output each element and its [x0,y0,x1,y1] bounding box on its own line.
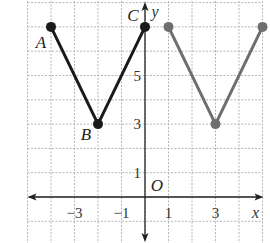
translated-graph-point [211,119,221,129]
y-tick-label: 3 [134,116,142,132]
coordinate-plane: −3−113135OxyABC [0,0,270,243]
y-tick-label: 5 [134,68,142,84]
x-tick-label: 3 [212,205,220,221]
point-label-c: C [127,6,139,25]
original-graph-point [93,119,103,129]
x-tick-label: 1 [165,205,173,221]
original-graph-point [46,22,56,32]
origin-label: O [151,176,163,195]
translated-graph-point [258,22,268,32]
point-label-b: B [81,125,92,144]
point-label-a: A [35,33,47,52]
x-tick-label: −1 [114,205,130,221]
x-axis-label: x [251,204,259,221]
original-graph-point [140,22,150,32]
labels: −3−113135OxyABC [35,3,259,221]
translated-graph-point [164,22,174,32]
x-tick-label: −3 [67,205,83,221]
y-tick-label: 1 [134,165,142,181]
y-axis-label: y [149,3,159,21]
axes [28,2,264,242]
